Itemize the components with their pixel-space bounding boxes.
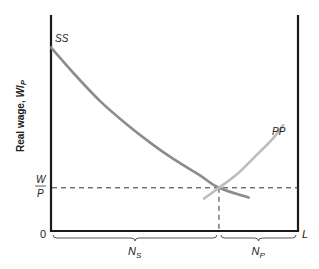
pp-curve-label: PP bbox=[272, 126, 286, 137]
y-axis-title-text: Real wage, bbox=[15, 98, 26, 152]
ss-curve-label: SS bbox=[55, 33, 69, 44]
wage-axis-label: W P bbox=[35, 174, 47, 199]
brace-label-np: NP bbox=[251, 245, 265, 260]
wage-label-denominator: P bbox=[37, 188, 44, 199]
curves bbox=[51, 47, 283, 198]
brace-label-ns: NS bbox=[128, 245, 142, 260]
x-end-label: L bbox=[302, 228, 308, 240]
y-axis-title-P: P bbox=[19, 79, 28, 85]
y-axis-title: Real wage, W/P bbox=[15, 79, 28, 152]
ss-curve bbox=[51, 47, 249, 197]
wage-label-numerator: W bbox=[36, 174, 47, 185]
equilibrium-guides bbox=[52, 188, 298, 231]
braces: NSNP bbox=[53, 235, 296, 260]
svg-text:Real wage, W/P: Real wage, W/P bbox=[15, 79, 28, 152]
brace-ns bbox=[53, 235, 217, 241]
chart: NSNP 0 L W P Real wage, W/P SS PP bbox=[0, 0, 319, 269]
axes bbox=[50, 15, 299, 232]
brace-np bbox=[221, 235, 296, 241]
origin-label: 0 bbox=[40, 228, 46, 240]
